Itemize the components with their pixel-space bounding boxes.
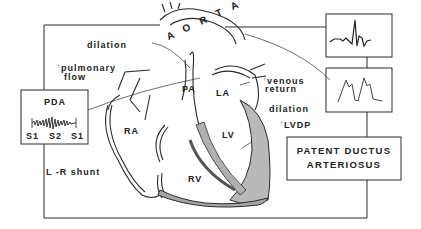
label-ra: RA — [124, 126, 139, 136]
label-rv: RV — [188, 174, 202, 184]
label-lv: LV — [222, 130, 235, 140]
up-arrow-icon: ↑ — [57, 63, 60, 69]
up-arrow-icon: ↑ — [263, 76, 266, 82]
label-la: LA — [216, 88, 230, 98]
label-lvdp: ↑LVDP — [280, 118, 311, 130]
up-arrow-icon: ↑ — [280, 120, 283, 126]
pda-diagram — [0, 0, 421, 229]
label-lr-shunt: L -R shunt — [46, 167, 100, 177]
label-pulmonary-flow-2: flow — [64, 72, 86, 82]
label-dilation-aorta: dilation — [87, 40, 127, 50]
septum-wall — [196, 122, 246, 195]
label-pa: PA — [182, 84, 196, 94]
label-venous-return-2: return — [265, 84, 297, 94]
diagram-title: PATENT DUCTUS ARTERIOSUS — [287, 144, 401, 172]
sound-s1-second: S1 — [71, 131, 84, 141]
label-dilation-lv: dilation — [269, 104, 309, 114]
pda-box-title: PDA — [44, 97, 66, 107]
ecg-box — [326, 14, 392, 57]
pulse-box — [326, 68, 392, 112]
connector-frame — [44, 25, 367, 218]
sound-s1-first: S1 — [26, 131, 39, 141]
sound-s2: S2 — [49, 131, 62, 141]
